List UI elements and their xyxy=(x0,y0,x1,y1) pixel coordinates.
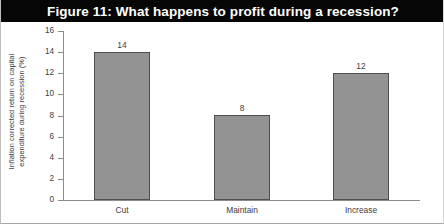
y-axis-line xyxy=(63,31,64,201)
figure-container: Figure 11: What happens to profit during… xyxy=(0,0,444,224)
y-tick-mark xyxy=(58,116,63,117)
y-tick-label: 12 xyxy=(8,68,54,77)
y-tick-label: 16 xyxy=(8,26,54,35)
x-category-label-maintain: Maintain xyxy=(214,205,270,215)
y-tick-label: 14 xyxy=(8,47,54,56)
bar-value-increase: 12 xyxy=(333,61,389,71)
bar-cut xyxy=(94,52,150,200)
y-tick-mark xyxy=(58,158,63,159)
y-tick-mark xyxy=(58,179,63,180)
y-tick-mark xyxy=(58,73,63,74)
y-tick-label: 0 xyxy=(8,195,54,204)
y-tick-label: 10 xyxy=(8,89,54,98)
bar-increase xyxy=(333,73,389,200)
y-tick-mark xyxy=(58,52,63,53)
y-tick-mark xyxy=(58,94,63,95)
y-tick-label: 8 xyxy=(8,111,54,120)
bar-value-maintain: 8 xyxy=(214,103,270,113)
y-tick-label: 2 xyxy=(8,174,54,183)
y-tick-mark xyxy=(58,31,63,32)
figure-title: Figure 11: What happens to profit during… xyxy=(47,4,399,19)
y-tick-mark xyxy=(58,200,63,201)
x-category-label-increase: Increase xyxy=(333,205,389,215)
x-category-label-cut: Cut xyxy=(94,205,150,215)
y-tick-mark xyxy=(58,137,63,138)
figure-title-bar: Figure 11: What happens to profit during… xyxy=(1,0,444,22)
y-tick-label: 4 xyxy=(8,153,54,162)
bar-value-cut: 14 xyxy=(94,40,150,50)
bar-maintain xyxy=(214,115,270,200)
y-tick-label: 6 xyxy=(8,132,54,141)
chart-plot-area: Inflation corrected return on capital ex… xyxy=(1,22,444,224)
x-axis-line xyxy=(63,200,420,201)
